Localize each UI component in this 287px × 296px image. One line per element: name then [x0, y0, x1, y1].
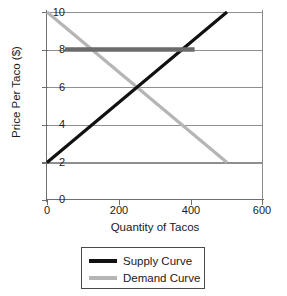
legend: Supply Curve Demand Curve [81, 247, 205, 289]
legend-swatch-supply-icon [89, 259, 117, 262]
y-axis-line [46, 10, 47, 202]
legend-label-demand: Demand Curve [123, 272, 200, 284]
y-tick-label-2: 2 [39, 157, 65, 168]
legend-swatch-demand-icon [89, 276, 117, 279]
gridline-price-6 [47, 87, 263, 88]
supply-demand-chart: 10 8 6 4 2 0 0 200 400 600 Price Per Tac… [0, 0, 287, 296]
legend-item-supply: Supply Curve [89, 254, 192, 268]
y-tick-label-0: 0 [39, 194, 65, 205]
gridline-price-10 [47, 12, 263, 13]
y-tick-label-4: 4 [39, 119, 65, 130]
x-tick-label-600: 600 [242, 205, 282, 216]
legend-item-demand: Demand Curve [89, 271, 200, 285]
y-tick-label-6: 6 [39, 82, 65, 93]
y-axis-title: Price Per Taco ($) [10, 22, 22, 162]
gridline-price-8 [47, 50, 263, 51]
x-tick-label-0: 0 [27, 205, 67, 216]
y-tick-label-8: 8 [39, 44, 65, 55]
x-tick-label-200: 200 [99, 205, 139, 216]
x-axis-title: Quantity of Tacos [47, 221, 263, 233]
legend-label-supply: Supply Curve [123, 255, 192, 267]
gridline-price-2 [47, 162, 263, 163]
plot-right-spine [262, 10, 263, 200]
x-tick-label-400: 400 [171, 205, 211, 216]
gridline-price-4 [47, 125, 263, 126]
y-tick-label-10: 10 [39, 7, 65, 18]
x-axis-line [46, 199, 264, 200]
